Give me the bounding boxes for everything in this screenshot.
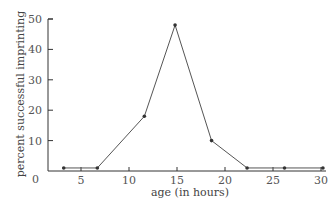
x-tick-label: 30 bbox=[314, 174, 328, 187]
y-tick-label: 20 bbox=[28, 104, 42, 117]
y-tick-label: 50 bbox=[28, 13, 42, 26]
data-series bbox=[62, 23, 325, 169]
y-tick-label: 40 bbox=[28, 43, 42, 56]
y-tick-label: 10 bbox=[28, 135, 42, 148]
axes bbox=[48, 19, 326, 171]
line-chart: 51015202530 01020304050 age (in hours) p… bbox=[0, 0, 335, 213]
data-point bbox=[62, 166, 66, 170]
data-point bbox=[143, 114, 147, 118]
y-ticks: 01020304050 bbox=[28, 13, 53, 186]
data-point bbox=[210, 139, 214, 143]
data-point bbox=[321, 166, 325, 170]
x-tick-label: 10 bbox=[122, 174, 136, 187]
data-point bbox=[173, 23, 177, 27]
x-axis-title: age (in hours) bbox=[151, 186, 229, 199]
data-point bbox=[245, 166, 249, 170]
y-tick-label: 0 bbox=[32, 173, 39, 186]
x-tick-label: 5 bbox=[78, 174, 85, 187]
series-line bbox=[64, 25, 323, 168]
x-tick-label: 25 bbox=[266, 174, 280, 187]
y-tick-label: 30 bbox=[28, 74, 42, 87]
data-point bbox=[96, 166, 100, 170]
data-point bbox=[283, 166, 287, 170]
y-axis-title: percent successful imprinting bbox=[14, 11, 27, 177]
x-ticks: 51015202530 bbox=[78, 167, 329, 187]
